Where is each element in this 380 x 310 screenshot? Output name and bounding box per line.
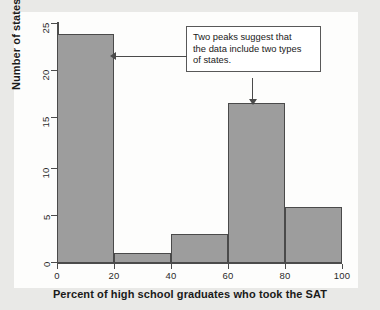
callout-leader-left-line	[113, 56, 187, 57]
bar-60-80	[228, 103, 285, 263]
y-tick-label: 0	[41, 262, 52, 267]
y-tick-label: 15	[41, 117, 52, 128]
y-tick-label: 10	[41, 168, 52, 179]
y-tick-label: 25	[41, 23, 52, 34]
annotation-callout: Two peaks suggest that the data include …	[186, 26, 321, 72]
histogram-figure: Number of states 2520151050020406080100 …	[0, 0, 380, 310]
bar-20-40	[114, 253, 171, 263]
callout-leader-down-arrowhead-icon	[249, 99, 257, 105]
x-axis-title: Percent of high school graduates who too…	[0, 288, 380, 300]
callout-line-2: the data include two types	[193, 43, 314, 55]
x-tick-label: 60	[208, 270, 248, 281]
x-tick-label: 20	[94, 270, 134, 281]
x-tick-label: 40	[151, 270, 191, 281]
x-tick-mark	[285, 264, 286, 269]
callout-line-1: Two peaks suggest that	[193, 31, 314, 43]
y-tick-mark	[51, 168, 57, 169]
bar-0-20	[57, 34, 114, 263]
callout-leader-left-arrowhead-icon	[110, 52, 116, 60]
bar-80-100	[285, 207, 342, 263]
x-tick-mark	[171, 264, 172, 269]
x-tick-mark	[342, 264, 343, 269]
x-tick-label: 100	[322, 270, 362, 281]
x-tick-label: 0	[37, 270, 77, 281]
y-tick-mark	[51, 23, 57, 24]
bar-40-60	[171, 234, 228, 263]
y-tick-mark	[51, 70, 57, 71]
x-tick-mark	[57, 264, 58, 269]
y-tick-label: 20	[41, 70, 52, 81]
x-tick-mark	[114, 264, 115, 269]
x-tick-mark	[228, 264, 229, 269]
y-tick-label: 5	[41, 215, 52, 220]
y-axis-title: Number of states	[10, 0, 22, 90]
x-tick-label: 80	[265, 270, 305, 281]
callout-line-3: of states.	[193, 54, 314, 66]
y-tick-mark	[51, 117, 57, 118]
